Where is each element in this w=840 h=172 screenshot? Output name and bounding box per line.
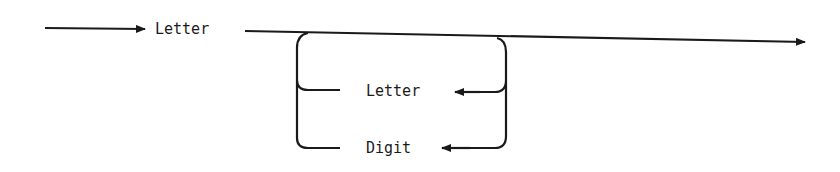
entry-arrow xyxy=(45,28,145,29)
start-letter-label: Letter xyxy=(155,20,209,38)
syntax-diagram: Letter Letter Digit xyxy=(0,0,840,172)
main-line-exit-arrow xyxy=(245,31,805,42)
loop-left-rail xyxy=(297,33,340,148)
loop-letter-label: Letter xyxy=(366,82,420,100)
loop-digit-label: Digit xyxy=(366,139,411,157)
